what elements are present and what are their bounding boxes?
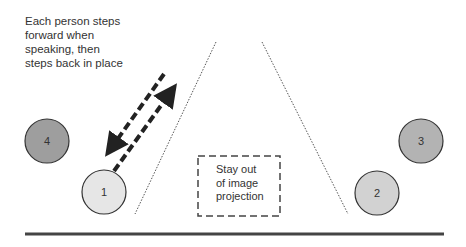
- instruction-note: Each person steps forward when speaking,…: [25, 14, 145, 70]
- person-3-label: 3: [411, 135, 431, 147]
- person-1-label: 1: [94, 186, 114, 198]
- person-2-label: 2: [367, 187, 387, 199]
- speaker-positioning-diagram: Each person steps forward when speaking,…: [0, 0, 466, 247]
- person-4-label: 4: [37, 135, 57, 147]
- no-go-zone-label: Stay out of image projection: [216, 163, 276, 204]
